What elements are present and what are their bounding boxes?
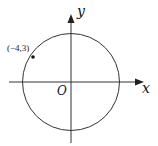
point-marker <box>31 55 35 59</box>
diagram-svg <box>0 0 158 146</box>
origin-label: O <box>57 84 67 98</box>
x-axis-label: x <box>142 80 150 96</box>
diagram-canvas: y x O (−4,3) <box>0 0 158 146</box>
y-axis-arrow-icon <box>68 14 75 23</box>
y-axis-label: y <box>77 3 85 19</box>
point-label: (−4,3) <box>7 43 29 53</box>
